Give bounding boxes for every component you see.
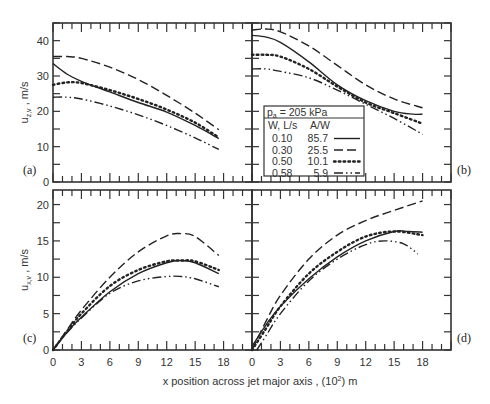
x-tick-label: 6: [306, 356, 312, 368]
legend-aw-value: 5.9: [313, 167, 328, 179]
legend-aw-value: 10.1: [308, 155, 329, 167]
x-tick-label: 0: [50, 356, 56, 368]
x-tick-label: 3: [78, 356, 84, 368]
series-line-0.10: [252, 231, 423, 347]
y-tick-label: 10: [37, 141, 49, 153]
series-line-0.50: [53, 260, 219, 350]
panel-label-a: (a): [23, 163, 36, 177]
legend-w-value: 0.58: [272, 167, 293, 179]
series-line-0.30: [53, 56, 219, 129]
series-line-0.58: [53, 276, 219, 350]
legend-aw-value: 85.7: [308, 132, 329, 144]
x-tick-label: 6: [107, 356, 113, 368]
legend-col-aw: A/W: [310, 119, 330, 131]
legend-header: pa = 205 kPa: [267, 106, 327, 119]
panel-a: 010203040uz,v , m/s(a): [18, 23, 252, 188]
x-tick-label: 12: [161, 356, 173, 368]
series-line-0.10: [53, 64, 219, 139]
panel-d: 0369121518(d): [249, 190, 471, 368]
y-tick-label: 20: [37, 105, 49, 117]
x-tick-label: 9: [135, 356, 141, 368]
legend-w-value: 0.50: [272, 155, 293, 167]
y-tick-label: 0: [43, 176, 49, 188]
panel-label-d: (d): [457, 331, 471, 345]
y-axis-title: ux,v , m/s: [18, 249, 32, 291]
x-tick-label: 15: [388, 356, 400, 368]
y-axis-title: uz,v , m/s: [18, 81, 32, 123]
series-line-0.10: [252, 35, 423, 114]
chart: 010203040uz,v , m/s(a)(b)05101520ux,v , …: [0, 0, 490, 404]
legend: pa = 205 kPaW, L/sA/W0.1085.70.3025.50.5…: [264, 106, 364, 179]
series-line-0.30: [252, 201, 423, 350]
legend-w-value: 0.10: [272, 132, 293, 144]
series-line-0.50: [53, 82, 219, 137]
y-tick-label: 20: [37, 199, 49, 211]
x-tick-label: 15: [189, 356, 201, 368]
y-tick-label: 40: [37, 35, 49, 47]
y-tick-label: 5: [43, 308, 49, 320]
panel-frame: [53, 190, 252, 350]
panel-frame: [252, 190, 451, 350]
series-line-0.50: [252, 231, 423, 350]
x-tick-label: 3: [277, 356, 283, 368]
y-tick-label: 15: [37, 235, 49, 247]
y-tick-label: 0: [43, 344, 49, 356]
x-tick-label: 18: [217, 356, 229, 368]
panel-c: 05101520ux,v , m/s0369121518(c): [18, 190, 252, 368]
panel-label-c: (c): [23, 331, 36, 345]
x-tick-label: 0: [249, 356, 255, 368]
x-tick-label: 9: [334, 356, 340, 368]
legend-w-value: 0.30: [272, 144, 293, 156]
series-line-0.10: [53, 261, 219, 350]
x-axis-title: x position across jet major axis , (102)…: [163, 375, 358, 387]
legend-aw-value: 25.5: [308, 144, 329, 156]
y-tick-label: 10: [37, 271, 49, 283]
y-tick-label: 30: [37, 70, 49, 82]
panel-frame: [53, 23, 252, 182]
x-tick-label: 18: [416, 356, 428, 368]
panel-label-b: (b): [457, 163, 471, 177]
series-line-0.30: [53, 233, 219, 350]
legend-col-w: W, L/s: [268, 119, 297, 131]
x-tick-label: 12: [360, 356, 372, 368]
